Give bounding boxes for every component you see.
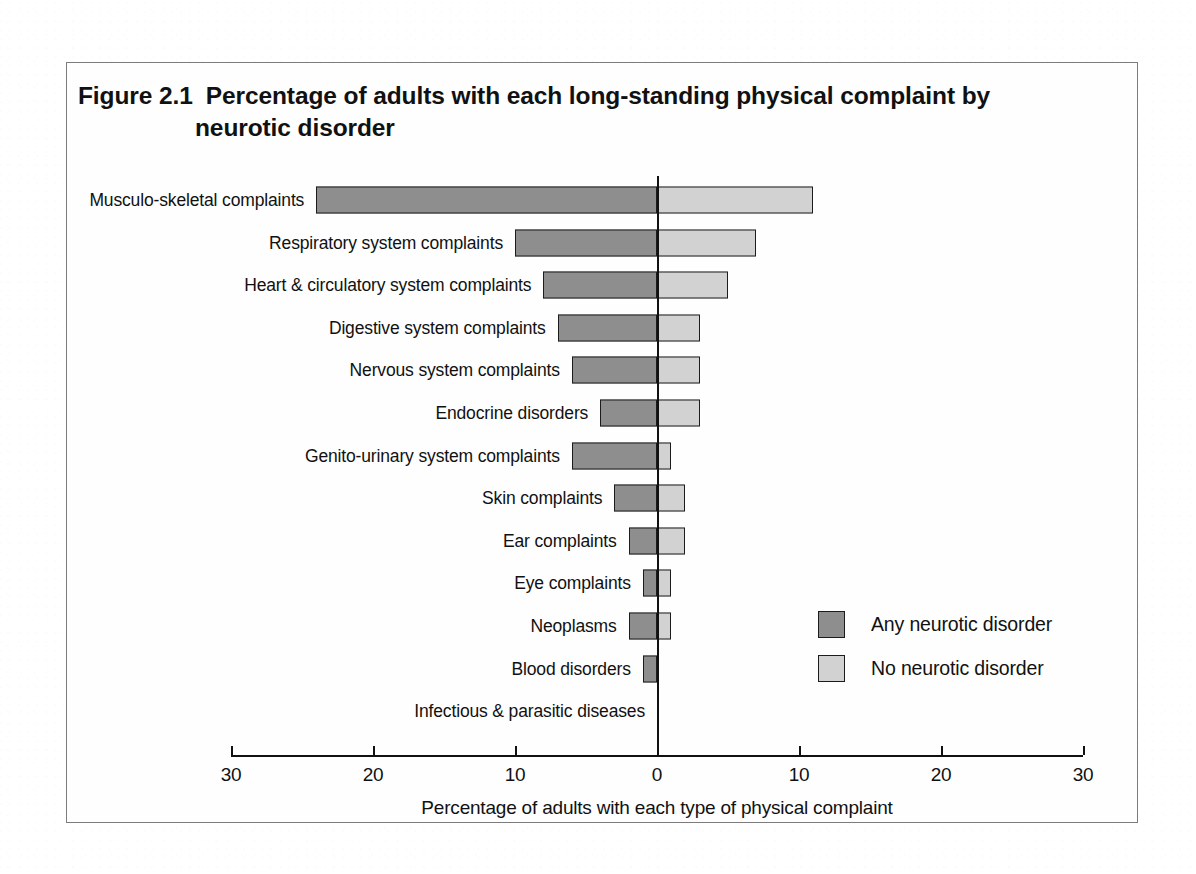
chart-legend: Any neurotic disorderNo neurotic disorde… bbox=[818, 602, 1052, 690]
bar-any-neurotic-disorder bbox=[643, 655, 657, 682]
x-axis-tick-label: 30 bbox=[221, 764, 242, 786]
bar-no-neurotic-disorder bbox=[657, 272, 728, 299]
category-label: Heart & circulatory system complaints bbox=[244, 275, 531, 296]
category-label: Blood disorders bbox=[511, 658, 630, 679]
bar-any-neurotic-disorder bbox=[316, 187, 657, 214]
x-axis-tick-label: 20 bbox=[931, 764, 952, 786]
x-axis-tick bbox=[373, 746, 375, 755]
bar-no-neurotic-disorder bbox=[657, 527, 685, 554]
bar-no-neurotic-disorder bbox=[657, 357, 700, 384]
legend-item: No neurotic disorder bbox=[818, 646, 1052, 690]
category-label: Digestive system complaints bbox=[329, 317, 546, 338]
x-axis-tick bbox=[657, 746, 659, 755]
category-label: Nervous system complaints bbox=[350, 360, 560, 381]
zero-axis-line bbox=[657, 176, 659, 755]
chart-plot-area: Musculo-skeletal complaintsRespiratory s… bbox=[0, 0, 1196, 874]
x-axis-tick bbox=[1083, 746, 1085, 755]
bar-any-neurotic-disorder bbox=[600, 400, 657, 427]
category-label: Ear complaints bbox=[503, 530, 617, 551]
x-axis-tick-label: 30 bbox=[1073, 764, 1094, 786]
bar-no-neurotic-disorder bbox=[657, 400, 700, 427]
legend-item: Any neurotic disorder bbox=[818, 602, 1052, 646]
bar-any-neurotic-disorder bbox=[558, 314, 657, 341]
category-label: Neoplasms bbox=[530, 616, 616, 637]
bar-no-neurotic-disorder bbox=[657, 485, 685, 512]
category-label: Musculo-skeletal complaints bbox=[89, 190, 304, 211]
bar-no-neurotic-disorder bbox=[657, 229, 756, 256]
bar-any-neurotic-disorder bbox=[629, 527, 657, 554]
legend-label: No neurotic disorder bbox=[871, 657, 1044, 680]
x-axis-tick-label: 0 bbox=[652, 764, 662, 786]
bar-no-neurotic-disorder bbox=[657, 442, 671, 469]
bar-any-neurotic-disorder bbox=[572, 442, 657, 469]
category-label: Infectious & parasitic diseases bbox=[414, 701, 645, 722]
x-axis-tick bbox=[941, 746, 943, 755]
category-label: Respiratory system complaints bbox=[269, 232, 503, 253]
bar-no-neurotic-disorder bbox=[657, 613, 671, 640]
x-axis-tick bbox=[231, 746, 233, 755]
legend-label: Any neurotic disorder bbox=[871, 613, 1052, 636]
bar-no-neurotic-disorder bbox=[657, 570, 671, 597]
category-label: Eye complaints bbox=[514, 573, 631, 594]
category-label: Genito-urinary system complaints bbox=[305, 445, 560, 466]
bar-any-neurotic-disorder bbox=[614, 485, 657, 512]
x-axis-tick-label: 10 bbox=[505, 764, 526, 786]
legend-swatch-icon bbox=[818, 655, 845, 682]
x-axis-tick-label: 10 bbox=[789, 764, 810, 786]
bar-no-neurotic-disorder bbox=[657, 314, 700, 341]
x-axis-title: Percentage of adults with each type of p… bbox=[231, 797, 1083, 819]
bar-any-neurotic-disorder bbox=[643, 570, 657, 597]
category-label: Endocrine disorders bbox=[435, 403, 588, 424]
x-axis-tick-label: 20 bbox=[363, 764, 384, 786]
figure-page: Figure 2.1Percentage of adults with each… bbox=[0, 0, 1196, 874]
bar-any-neurotic-disorder bbox=[629, 613, 657, 640]
bar-any-neurotic-disorder bbox=[515, 229, 657, 256]
bar-any-neurotic-disorder bbox=[572, 357, 657, 384]
x-axis-line bbox=[231, 755, 1083, 757]
legend-swatch-icon bbox=[818, 611, 845, 638]
bar-no-neurotic-disorder bbox=[657, 187, 813, 214]
bar-any-neurotic-disorder bbox=[543, 272, 657, 299]
x-axis-tick bbox=[515, 746, 517, 755]
category-label: Skin complaints bbox=[482, 488, 602, 509]
x-axis-tick bbox=[799, 746, 801, 755]
